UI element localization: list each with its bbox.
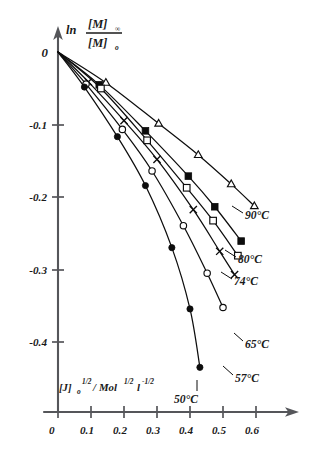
x-tick-label-1: 0.1	[80, 424, 94, 436]
data-point-open-circle	[149, 168, 155, 174]
x-axis-title-slash: /	[92, 381, 97, 393]
data-point-cross-x	[216, 248, 223, 255]
series-line	[58, 52, 223, 308]
y-axis-title-denominator-sub: o	[115, 43, 119, 52]
data-point-filled-circle	[197, 364, 203, 370]
data-point-open-circle	[180, 223, 186, 229]
data-point-filled-square	[211, 203, 218, 210]
chart-canvas: -0.1 -0.2 -0.3 -0.4 0 0 0.1 0.2 0.3 0.4 …	[0, 0, 311, 450]
data-point-cross-x	[153, 156, 160, 163]
x-axis-title-mol-sup: 1/2	[124, 377, 134, 386]
y-axis-title-numerator: [M]	[88, 17, 107, 31]
series-label-90c: 90°C	[245, 209, 269, 222]
x-tick-label-3: 0.3	[146, 424, 160, 436]
y-tick-label-0: -0.1	[29, 119, 47, 131]
y-tick-label-1: -0.2	[29, 191, 47, 203]
data-point-filled-circle	[81, 84, 87, 90]
data-point-open-triangle	[102, 79, 110, 86]
data-series-layer	[58, 52, 258, 370]
data-point-open-triangle	[194, 151, 202, 158]
x-tick-label-0: 0	[49, 424, 55, 436]
series-57c	[58, 52, 226, 311]
y-tick-label-2: -0.3	[29, 264, 47, 276]
series-label-65c: 65°C	[245, 338, 269, 351]
x-tick-label-4: 0.4	[179, 424, 193, 436]
x-axis-title-litre: l	[137, 381, 140, 393]
y-tick-label-3: -0.4	[29, 336, 47, 348]
series-label-57c: 57°C	[235, 372, 259, 385]
series-label-80c: 80°C	[238, 253, 262, 266]
data-point-open-circle	[204, 270, 210, 276]
x-axis	[44, 407, 299, 417]
y-axis	[53, 26, 63, 412]
series-50c	[58, 52, 203, 370]
data-point-filled-circle	[169, 245, 175, 251]
data-point-filled-square	[238, 238, 245, 245]
x-axis-title: [J] o 1/2 / Mol 1/2 l -1/2	[59, 377, 154, 396]
x-axis-title-bracket-sub: o	[77, 387, 81, 396]
x-axis-title-bracket-sup: 1/2	[82, 377, 92, 386]
chart-figure: -0.1 -0.2 -0.3 -0.4 0 0 0.1 0.2 0.3 0.4 …	[0, 0, 311, 450]
x-tick-label-5: 0.5	[212, 424, 226, 436]
data-point-filled-square	[142, 128, 149, 135]
data-point-filled-circle	[187, 306, 193, 312]
data-point-open-circle	[119, 126, 125, 132]
data-point-open-circle	[220, 304, 226, 310]
series-line	[58, 52, 241, 241]
data-point-cross-x	[120, 117, 127, 124]
y-axis-title: ln [M] ∞ [M] o	[66, 17, 122, 52]
x-tick-label-6: 0.6	[245, 424, 259, 436]
data-point-filled-circle	[142, 182, 148, 188]
origin-label: 0	[42, 46, 49, 60]
x-axis-title-litre-sup: -1/2	[142, 377, 154, 386]
data-point-filled-square	[185, 173, 192, 180]
y-axis-title-denominator: [M]	[88, 36, 107, 50]
data-point-open-triangle	[155, 119, 163, 126]
data-point-filled-circle	[114, 134, 120, 140]
data-point-open-square	[144, 137, 151, 144]
data-point-open-square	[183, 184, 190, 191]
y-axis-title-numerator-sub: ∞	[115, 24, 120, 33]
series-line	[58, 52, 200, 367]
series-label-74c: 74°C	[234, 275, 258, 288]
data-point-cross-x	[190, 206, 197, 213]
x-axis-title-bracket: [J]	[59, 381, 72, 393]
y-axis-title-ln: ln	[66, 23, 76, 37]
data-point-open-square	[210, 217, 217, 224]
x-tick-label-2: 0.2	[113, 424, 127, 436]
x-axis-title-mol: Mol	[98, 381, 117, 393]
data-point-open-square	[98, 85, 105, 92]
series-label-50c: 50°C	[174, 393, 198, 406]
